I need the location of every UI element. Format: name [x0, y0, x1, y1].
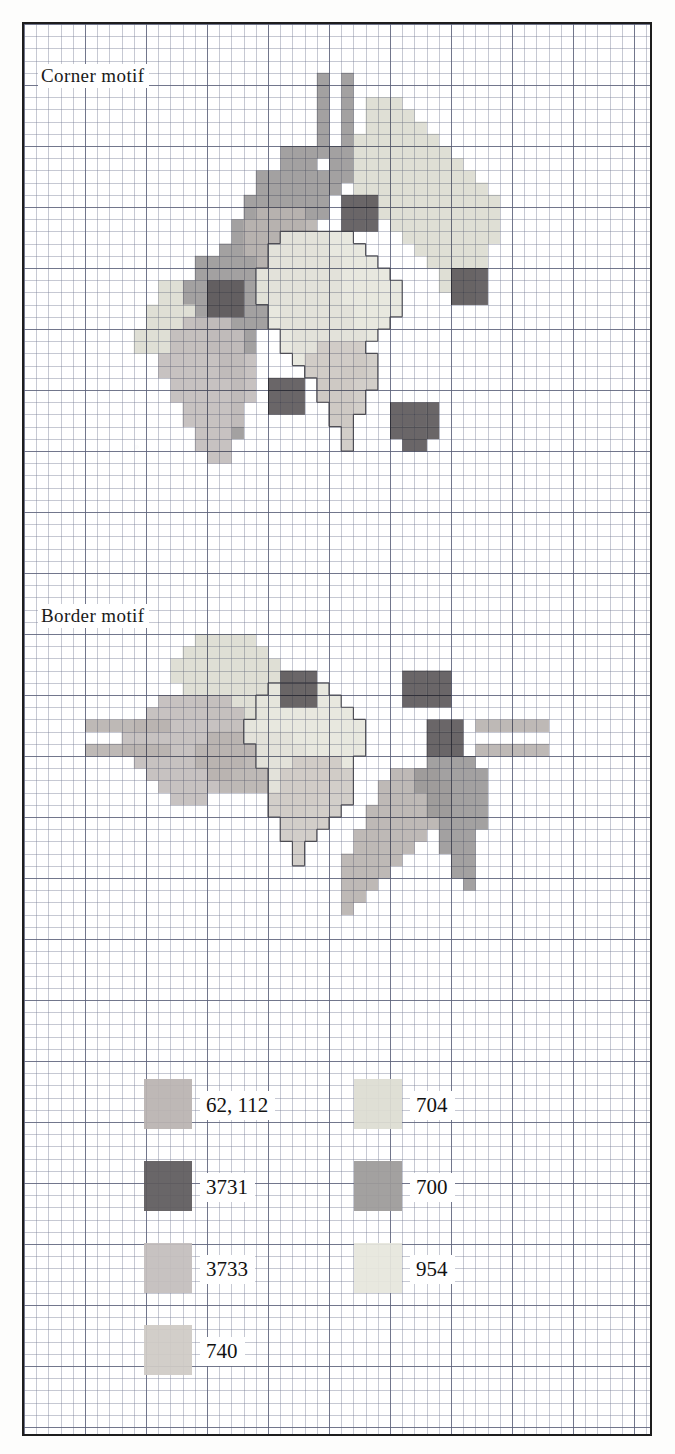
legend-label: 954 — [410, 1255, 455, 1284]
legend-label: 62, 112 — [200, 1091, 275, 1120]
legend-label: 704 — [410, 1091, 455, 1120]
chart-frame: Corner motif Border motif 62, 1127043731… — [22, 22, 652, 1436]
legend-label: 740 — [200, 1337, 245, 1366]
legend-swatch — [354, 1079, 402, 1129]
legend-label: 3733 — [200, 1255, 255, 1284]
legend-swatch — [354, 1243, 402, 1293]
legend-swatch — [144, 1243, 192, 1293]
motif-outline — [256, 231, 402, 451]
color-legend: 62, 11270437317003733954740 — [24, 1079, 650, 1369]
legend-swatch — [144, 1325, 192, 1375]
legend-swatch — [354, 1161, 402, 1211]
legend-label: 3731 — [200, 1173, 255, 1202]
legend-label: 700 — [410, 1173, 455, 1202]
corner-motif-caption: Corner motif — [38, 64, 149, 88]
legend-swatch — [144, 1161, 192, 1211]
legend-swatch — [144, 1079, 192, 1129]
motif-outline — [244, 683, 366, 866]
border-motif-caption: Border motif — [38, 604, 149, 628]
chart-page: Corner motif Border motif 62, 1127043731… — [0, 0, 675, 1454]
